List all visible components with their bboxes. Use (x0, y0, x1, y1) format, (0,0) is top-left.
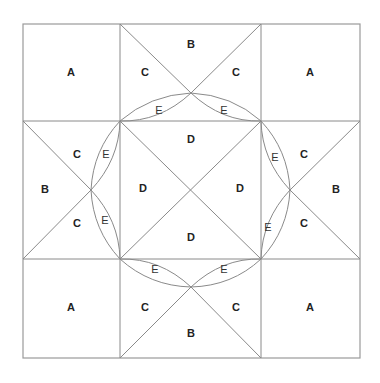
piece-label-a-br: A (306, 301, 314, 313)
piece-label-a-tr: A (306, 66, 314, 78)
piece-label-e-2: E (220, 104, 227, 116)
piece-label-d-right: D (236, 182, 244, 194)
diag-bot-r (191, 287, 261, 358)
piece-label-a-bl: A (67, 301, 75, 313)
piece-label-b-bottom: B (187, 327, 195, 339)
piece-label-e-5: E (271, 151, 278, 163)
piece-label-c-6: C (300, 217, 308, 229)
piece-label-e-7: E (151, 263, 158, 275)
piece-label-c-1: C (141, 66, 149, 78)
piece-label-e-4: E (101, 214, 108, 226)
piece-label-e-1: E (155, 104, 162, 116)
piece-label-d-bottom: D (187, 231, 195, 243)
piece-label-c-8: C (232, 301, 240, 313)
diag-top-r (191, 24, 261, 93)
piece-label-c-5: C (300, 148, 308, 160)
piece-label-e-8: E (220, 263, 227, 275)
diag-bot-l (120, 287, 191, 358)
piece-label-c-4: C (73, 217, 81, 229)
piece-label-b-top: B (187, 38, 195, 50)
piece-label-c-2: C (232, 66, 240, 78)
diag-top-l (120, 24, 191, 93)
piece-label-e-6: E (264, 221, 271, 233)
piece-label-b-right: B (332, 183, 340, 195)
piece-label-d-top: D (187, 133, 195, 145)
piece-label-b-left: B (41, 183, 49, 195)
piece-label-c-7: C (141, 301, 149, 313)
piece-label-a-tl: A (67, 66, 75, 78)
piece-label-c-3: C (73, 148, 81, 160)
piece-label-d-left: D (139, 182, 147, 194)
piece-label-e-3: E (102, 148, 109, 160)
quilt-block-diagram: AAAABBBBCCCCCCCCDDDDEEEEEEEE (0, 0, 380, 383)
